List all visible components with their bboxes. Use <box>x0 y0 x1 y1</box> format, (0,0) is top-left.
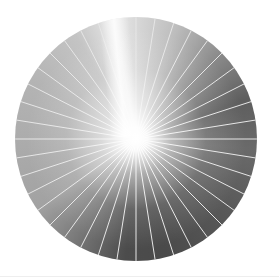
bottom-divider <box>0 276 279 277</box>
sunburst-disc <box>15 17 257 261</box>
center-glow <box>15 17 257 261</box>
